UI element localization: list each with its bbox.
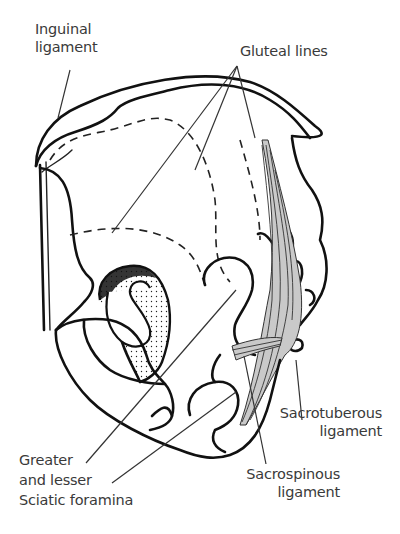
leader-gluteal-1 xyxy=(112,66,237,233)
leader-gluteal-3 xyxy=(237,66,255,138)
inguinal-ligament-band xyxy=(40,150,72,330)
leader-lines xyxy=(58,66,302,483)
label-sacrospinous-ligament: Sacrospinous ligament xyxy=(238,465,340,501)
label-gluteal-lines: Gluteal lines xyxy=(240,42,328,60)
leader-gluteal-2 xyxy=(195,66,237,170)
iliac-crest xyxy=(36,76,322,166)
gluteal-lines xyxy=(50,118,260,285)
label-sciatic-foramina: Greater and lesser Sciatic foramina xyxy=(19,450,133,510)
label-inguinal-ligament: Inguinal ligament xyxy=(35,20,97,56)
label-sacrotuberous-ligament: Sacrotuberous ligament xyxy=(268,404,382,440)
acetabulum xyxy=(99,266,170,382)
